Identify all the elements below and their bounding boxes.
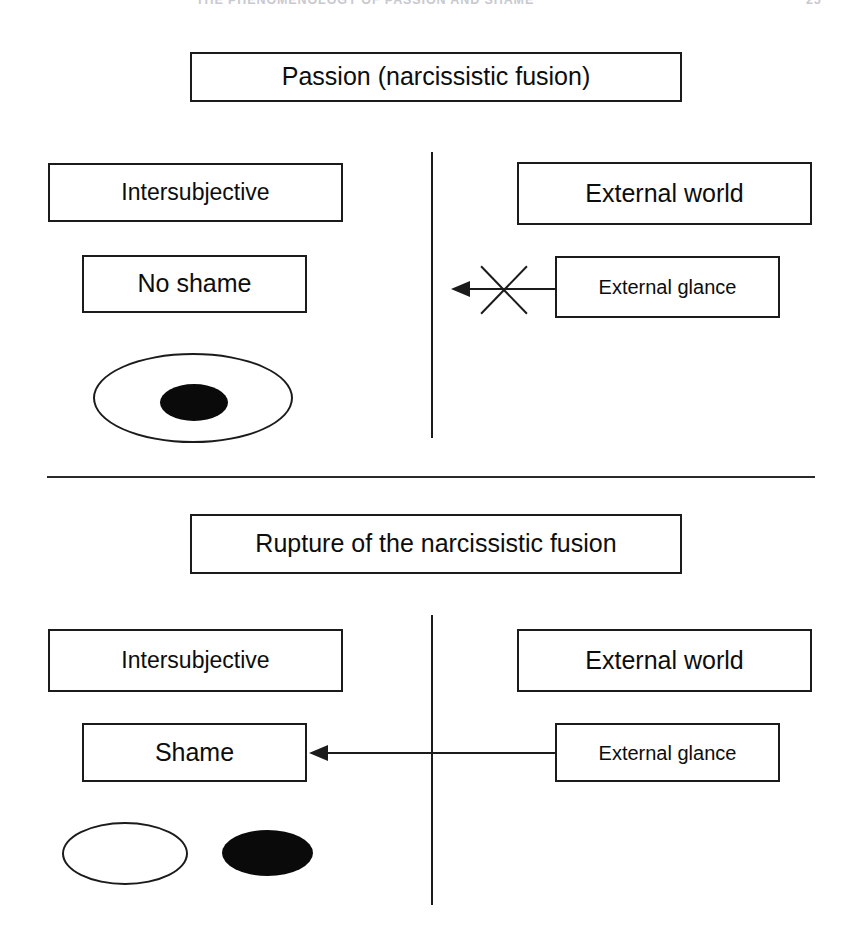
panel-rupture-glance-arrow-line xyxy=(325,752,555,754)
panel-passion-column-divider xyxy=(431,152,433,438)
panel-passion-intersubjective-box: Intersubjective xyxy=(48,163,343,222)
panel-passion-external-world-box: External world xyxy=(517,162,812,225)
section-divider xyxy=(47,476,815,478)
diagram-page: THE PHENOMENOLOGY OF PASSION AND SHAME 2… xyxy=(0,0,858,942)
panel-rupture-external-glance-box: External glance xyxy=(555,723,780,782)
panel-passion-external-glance-box: External glance xyxy=(555,256,780,318)
page-number: 25 xyxy=(806,0,822,7)
panel-rupture-self-ellipse xyxy=(62,822,188,885)
panel-passion-no-shame-box: No shame xyxy=(82,255,307,313)
panel-rupture-external-world-box: External world xyxy=(517,629,812,692)
panel-rupture-other-ellipse xyxy=(222,830,313,876)
running-head: THE PHENOMENOLOGY OF PASSION AND SHAME 2… xyxy=(0,0,858,7)
panel-rupture-title-box: Rupture of the narcissistic fusion xyxy=(190,514,682,574)
panel-rupture-glance-arrow-head xyxy=(309,745,328,761)
panel-passion-title-box: Passion (narcissistic fusion) xyxy=(190,52,682,102)
panel-passion-glance-arrow-head xyxy=(451,281,470,297)
panel-rupture-column-divider xyxy=(431,615,433,905)
panel-rupture-shame-box: Shame xyxy=(82,723,307,782)
panel-rupture-intersubjective-box: Intersubjective xyxy=(48,629,343,692)
panel-passion-inner-ellipse xyxy=(160,384,228,421)
panel-passion-blocked-x-icon xyxy=(471,256,537,322)
running-head-title: THE PHENOMENOLOGY OF PASSION AND SHAME xyxy=(196,0,534,7)
